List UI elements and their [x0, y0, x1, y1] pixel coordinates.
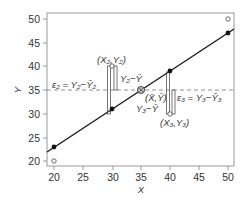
x-tick-label: 25 [77, 171, 89, 183]
x-axis: 20 25 30 35 40 45 50 X [48, 166, 234, 195]
point-2-label: (X₂,Y₂) [97, 54, 126, 65]
y-tick-label: 20 [28, 155, 40, 167]
y-tick-label: 35 [28, 84, 40, 96]
residual-3-label: ε₃ = Y₃−Ŷ₃ [177, 92, 222, 103]
x-tick-label: 45 [193, 171, 205, 183]
deviation-2-label: Y₂−Ȳ [120, 73, 143, 84]
y-tick-label: 45 [28, 37, 40, 49]
x-tick-label: 30 [107, 171, 119, 183]
y-axis: 50 45 40 35 30 25 20 Y [12, 13, 47, 167]
y-tick-label: 25 [28, 132, 40, 144]
deviation-3-label: Y₃−Ȳ [136, 103, 159, 114]
x-tick-label: 50 [222, 171, 234, 183]
y-tick-label: 30 [28, 108, 40, 120]
x-tick-label: 20 [48, 171, 60, 183]
y-axis-label: Y [12, 86, 23, 93]
x-tick-label: 40 [164, 171, 176, 183]
y-tick-label: 50 [28, 13, 40, 25]
x-axis-label: X [137, 184, 145, 195]
point-3-label: (X₃,Y₃) [160, 117, 189, 128]
residual-2-label: ε₂ = Y₂−Ŷ₂ [52, 79, 96, 90]
mean-point [137, 86, 144, 93]
y-tick-label: 40 [28, 60, 40, 72]
x-tick-label: 35 [135, 171, 147, 183]
deviation-brackets-x3 [167, 72, 176, 114]
regression-chart: 50 45 40 35 30 25 20 Y 20 25 30 35 40 45… [0, 0, 248, 205]
mean-point-label: (X̄,Ȳ) [145, 92, 167, 103]
